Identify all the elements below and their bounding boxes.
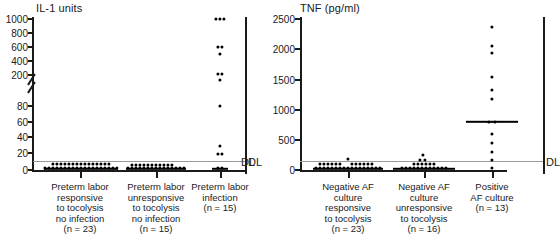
y-tick-800: [28, 32, 33, 34]
x-tick-group-3: [492, 172, 494, 178]
panel-divider-right: [543, 17, 545, 174]
y-axis-label-0: 0: [0, 165, 28, 176]
y-tick-1000: [28, 18, 33, 20]
detection-limit-label-right: DL: [546, 156, 560, 168]
y-tick-0: [28, 169, 33, 171]
x-axis-caption-group-1: Negative AF culture responsive to tocoly…: [306, 182, 390, 235]
panel-title-il1: IL-1 units: [36, 2, 82, 14]
panel-il1: IL-1 units 1000 800 600 400 200 80 60 40…: [0, 0, 270, 252]
x-axis-caption-group-3: Preterm labor infection (n = 15): [180, 182, 260, 214]
y-tick-500: [295, 139, 300, 141]
y-axis-label-40: 40: [0, 132, 28, 143]
y-axis-label-80: 80: [0, 101, 28, 112]
x-tick-group-1: [80, 172, 82, 178]
y-tick-80: [28, 105, 33, 107]
panel-tnf: TNF (pg/ml) 2500 2000 1500 1000 500 0 DL…: [264, 0, 541, 252]
x-axis-caption-group-1: Preterm labor responsive to tocolysis no…: [38, 182, 122, 235]
y-tick-600: [28, 46, 33, 48]
x-tick-group-1: [348, 172, 350, 178]
y-tick-20: [28, 152, 33, 154]
plot-area-il1: [32, 17, 245, 172]
y-tick-0: [295, 169, 300, 171]
detection-limit-label-middle: DL: [241, 156, 255, 168]
x-tick-group-2: [424, 172, 426, 178]
y-axis-label-500: 500: [264, 135, 295, 146]
y-tick-40: [28, 136, 33, 138]
x-tick-group-2: [156, 172, 158, 178]
y-tick-1500: [295, 79, 300, 81]
y-axis-break-icon: [26, 82, 40, 98]
y-axis-label-2000: 2000: [264, 44, 295, 55]
panel-title-tnf: TNF (pg/ml): [300, 2, 360, 14]
y-axis-label-400: 400: [0, 56, 28, 67]
x-tick-group-3: [220, 172, 222, 178]
y-axis-label-600: 600: [0, 42, 28, 53]
y-axis-label-1000: 1000: [0, 14, 28, 25]
y-tick-60: [28, 121, 33, 123]
y-axis-label-60: 60: [0, 117, 28, 128]
y-tick-2000: [295, 48, 300, 50]
panel-divider-left: [245, 17, 247, 174]
x-axis-caption-group-3: Positive AF culture (n = 13): [454, 182, 530, 214]
y-tick-2500: [295, 18, 300, 20]
plot-area-tnf: [300, 17, 507, 172]
y-axis-label-20: 20: [0, 148, 28, 159]
y-tick-400: [28, 60, 33, 62]
y-axis-label-1000: 1000: [264, 105, 295, 116]
y-axis-label-2500: 2500: [264, 14, 295, 25]
y-axis-label-1500: 1500: [264, 75, 295, 86]
y-axis-label-0: 0: [264, 165, 295, 176]
y-axis-label-200: 200: [0, 70, 28, 81]
y-tick-1000: [295, 109, 300, 111]
y-axis-label-800: 800: [0, 28, 28, 39]
